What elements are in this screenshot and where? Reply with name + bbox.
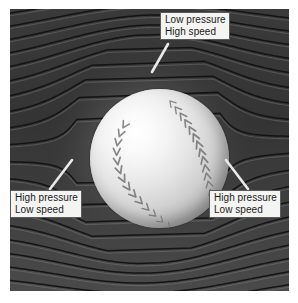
seam-stitch	[197, 148, 206, 157]
seam-stitch	[203, 172, 211, 180]
callout-top-line2: High speed	[165, 26, 226, 38]
seam-stitch	[115, 166, 124, 175]
seam-stitch	[202, 164, 210, 172]
seam-stitch	[114, 139, 122, 147]
seam-stitch	[190, 132, 199, 141]
seam-stitch	[205, 180, 213, 187]
seam-stitch	[113, 157, 121, 165]
callout-left-line1: High pressure	[15, 192, 78, 204]
seam-stitch	[182, 118, 191, 127]
seam-stitch	[113, 148, 120, 155]
callout-high-pressure-low-speed-left: High pressure Low speed	[10, 190, 82, 218]
callout-high-pressure-low-speed-right: High pressure Low speed	[209, 190, 281, 218]
seam-stitch	[129, 190, 139, 200]
callout-left-line2: Low speed	[15, 204, 78, 216]
seam-stitch	[186, 125, 195, 134]
seam-stitch	[135, 197, 144, 206]
callout-right-line2: Low speed	[214, 204, 277, 216]
seam-stitch	[149, 210, 158, 219]
seam-stitch	[194, 140, 203, 149]
seam-stitch	[116, 129, 125, 138]
baseball-airflow-figure: Low pressure High speed High pressure Lo…	[0, 0, 298, 303]
flow-field-plate	[10, 9, 289, 291]
callout-top-line1: Low pressure	[165, 14, 226, 26]
seam-stitch	[142, 203, 151, 212]
seam-left	[113, 121, 172, 228]
seam-stitch	[164, 222, 172, 228]
seam-stitch	[177, 111, 186, 120]
seam-stitch	[167, 99, 176, 108]
callout-low-pressure-high-speed: Low pressure High speed	[160, 12, 230, 40]
seam-stitch	[199, 156, 207, 164]
seam-stitch	[118, 174, 127, 183]
seam-stitch	[157, 216, 165, 224]
seam-stitch	[120, 121, 129, 130]
seam-stitch	[123, 182, 133, 192]
callout-right-line1: High pressure	[214, 192, 277, 204]
